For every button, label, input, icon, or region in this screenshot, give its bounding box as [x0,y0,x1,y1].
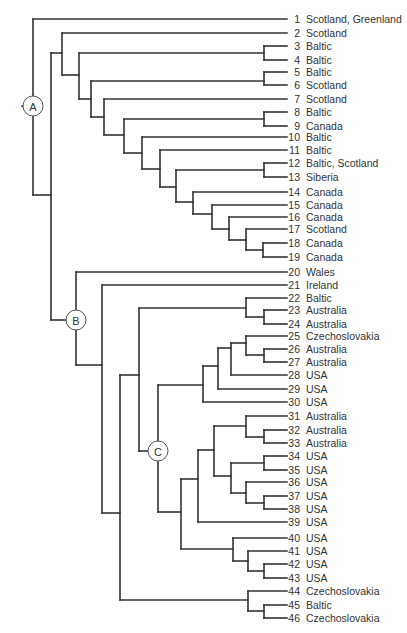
leaf-number: 43 [288,572,300,584]
leaf-item: 14Canada [288,186,343,198]
node-a: A [23,96,43,116]
leaf-number: 5 [294,66,300,78]
leaf-number: 21 [288,279,300,291]
leaf-number: 7 [294,93,300,105]
leaf-number: 29 [288,383,300,395]
leaf-name: Scotland [306,93,347,105]
leaf-name: Australia [306,343,347,355]
phylogenetic-tree: ABC 1Scotland, Greenland2Scotland3Baltic… [0,0,407,633]
leaf-name: USA [306,383,328,395]
leaf-number: 25 [288,330,300,342]
leaf-number: 16 [288,211,300,223]
node-label: B [72,315,79,327]
leaf-item: 26Australia [288,343,347,355]
leaf-name: Ireland [306,279,338,291]
leaf-item: 44Czechoslovakia [288,585,379,597]
leaf-item: 10Baltic [288,131,331,143]
leaf-item: 11Baltic [289,144,332,156]
leaf-name: USA [306,532,328,544]
leaf-number: 40 [288,532,300,544]
leaf-name: Scotland [306,79,347,91]
leaf-name: USA [306,516,328,528]
leaf-item: 27Australia [288,356,347,368]
leaf-item: 18Canada [288,237,343,249]
leaf-number: 46 [288,612,300,624]
leaf-number: 15 [288,199,300,211]
leaf-number: 31 [288,410,300,422]
labeled-nodes: ABC [23,96,168,461]
leaf-name: USA [306,545,328,557]
leaf-item: 35USA [288,464,327,476]
leaf-labels: 1Scotland, Greenland2Scotland3Baltic4Bal… [288,13,402,624]
leaf-item: 15Canada [288,199,343,211]
leaf-name: USA [306,450,328,462]
leaf-name: USA [306,572,328,584]
node-b: B [66,310,86,330]
leaf-name: Australia [306,424,347,436]
leaf-item: 39USA [288,516,327,528]
leaf-name: Canada [306,211,343,223]
leaf-number: 3 [294,40,300,52]
leaf-name: USA [306,476,328,488]
leaf-item: 5Baltic [294,66,332,78]
leaf-number: 39 [288,516,300,528]
leaf-number: 18 [288,237,300,249]
leaf-item: 43USA [288,572,327,584]
leaf-name: Baltic [306,40,332,52]
node-label: C [154,446,162,458]
leaf-item: 23Australia [288,304,347,316]
leaf-number: 13 [288,171,300,183]
leaf-name: Baltic [306,54,332,66]
leaf-name: Australia [306,304,347,316]
leaf-number: 22 [288,292,300,304]
leaf-name: Australia [306,410,347,422]
tree-branches [22,19,287,618]
leaf-number: 34 [288,450,300,462]
leaf-name: Australia [306,437,347,449]
leaf-number: 33 [288,437,300,449]
leaf-item: 6Scotland [294,79,347,91]
leaf-name: USA [306,558,328,570]
leaf-item: 41USA [288,545,327,557]
leaf-number: 2 [294,27,300,39]
leaf-name: Wales [306,266,335,278]
leaf-item: 46Czechoslovakia [288,612,379,624]
leaf-name: Canada [306,251,343,263]
leaf-name: Scotland [306,223,347,235]
leaf-number: 14 [288,186,300,198]
leaf-number: 44 [288,585,300,597]
leaf-number: 28 [288,369,300,381]
leaf-name: Canada [306,186,343,198]
leaf-item: 33Australia [288,437,347,449]
leaf-number: 37 [288,490,300,502]
leaf-number: 38 [288,503,300,515]
leaf-item: 30USA [288,396,327,408]
leaf-number: 1 [294,13,300,25]
leaf-name: USA [306,396,328,408]
leaf-number: 23 [288,304,300,316]
leaf-number: 27 [288,356,300,368]
leaf-item: 20Wales [288,266,334,278]
leaf-name: Czechoslovakia [306,585,380,597]
leaf-item: 40USA [288,532,327,544]
leaf-name: Baltic, Scotland [306,157,379,169]
leaf-name: Canada [306,237,343,249]
leaf-item: 36USA [288,476,327,488]
leaf-name: Czechoslovakia [306,330,380,342]
leaf-number: 4 [294,54,300,66]
leaf-item: 17Scotland [288,223,347,235]
leaf-name: Baltic [306,599,332,611]
leaf-number: 10 [288,131,300,143]
node-label: A [29,101,37,113]
leaf-name: USA [306,369,328,381]
leaf-number: 42 [288,558,300,570]
leaf-name: Baltic [306,131,332,143]
leaf-number: 17 [288,223,300,235]
leaf-name: Canada [306,199,343,211]
leaf-number: 35 [288,464,300,476]
leaf-item: 28USA [288,369,327,381]
leaf-name: Czechoslovakia [306,612,380,624]
leaf-number: 45 [288,599,300,611]
leaf-name: Baltic [306,144,332,156]
leaf-item: 24Australia [288,318,347,330]
